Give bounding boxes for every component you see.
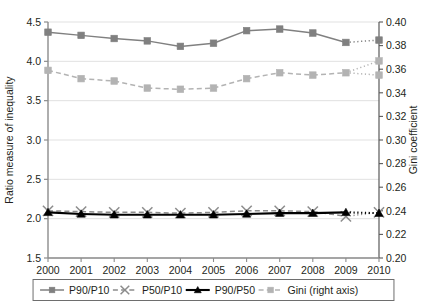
data-point-marker (78, 32, 85, 39)
left-axis-tick-label: 3.0 (26, 134, 41, 146)
data-point-marker (310, 30, 317, 37)
data-point-marker (310, 72, 317, 79)
series-line-segment (280, 211, 313, 212)
legend-item-label: P90/P50 (215, 284, 255, 296)
data-point-marker (268, 287, 274, 293)
data-point-marker (78, 75, 85, 82)
right-axis-tick-label: 0.38 (386, 39, 407, 51)
data-point-marker (376, 37, 383, 44)
series-line-segment (214, 214, 247, 215)
left-axis-title: Ratio measure of inequality (3, 76, 15, 204)
data-point-marker (144, 85, 151, 92)
data-point-marker (343, 69, 350, 76)
legend-item-label: Gini (right axis) (288, 284, 359, 296)
series-line-segment (81, 214, 114, 215)
chart-legend: P90/P10P50/P10P90/P50Gini (right axis) (33, 280, 394, 301)
data-point-marker (276, 69, 283, 76)
right-axis-tick-label: 0.22 (386, 228, 407, 240)
x-axis-tick-label: 2006 (235, 264, 259, 276)
right-axis-tick-label: 0.32 (386, 110, 407, 122)
x-axis-tick-label: 2008 (301, 264, 325, 276)
data-point-marker (144, 38, 151, 45)
data-point-marker (243, 27, 250, 34)
data-point-marker (276, 26, 283, 33)
data-point-marker (111, 78, 118, 85)
series-line-segment (313, 212, 346, 213)
right-axis-tick-label: 0.30 (386, 134, 407, 146)
left-axis-tick-label: 1.5 (26, 252, 41, 264)
data-point-marker (210, 40, 217, 47)
series-line-segment (147, 212, 180, 213)
series-line-segment (247, 213, 280, 214)
data-point-marker (210, 85, 217, 92)
right-axis-tick-label: 0.40 (386, 16, 407, 28)
right-axis-tick-label: 0.36 (386, 63, 407, 75)
data-point-marker (243, 75, 250, 82)
left-axis-tick-label: 2.0 (26, 212, 41, 224)
series-line-segment (180, 212, 213, 213)
right-axis-tick-label: 0.20 (386, 252, 407, 264)
legend-item-label: P50/P10 (142, 284, 182, 296)
x-axis-tick-label: 2005 (202, 264, 226, 276)
left-axis-tick-label: 4.0 (26, 55, 41, 67)
data-point-marker (111, 35, 118, 42)
legend-item-label: P90/P10 (69, 284, 109, 296)
x-axis-tick-label: 2004 (169, 264, 193, 276)
x-axis-tick-label: 2000 (36, 264, 60, 276)
data-point-marker (376, 58, 383, 65)
left-axis-tick-label: 4.5 (26, 16, 41, 28)
data-point-marker (177, 43, 184, 50)
data-point-marker (49, 287, 55, 293)
x-axis-tick-label: 2007 (268, 264, 292, 276)
left-axis-tick-label: 3.5 (26, 94, 41, 106)
series-line-segment (48, 211, 81, 212)
left-axis-tick-label: 2.5 (26, 173, 41, 185)
right-axis-tick-label: 0.28 (386, 157, 407, 169)
data-point-marker (376, 72, 383, 79)
data-point-marker (45, 67, 52, 74)
right-axis-tick-label: 0.34 (386, 87, 407, 99)
series-line-segment (81, 212, 114, 213)
data-point-marker (343, 39, 350, 46)
data-point-marker (45, 29, 52, 36)
x-axis-tick-label: 2002 (103, 264, 127, 276)
x-axis-tick-label: 2010 (367, 264, 391, 276)
x-axis-tick-label: 2009 (334, 264, 358, 276)
chart-canvas: 1.52.02.53.03.54.04.5 0.200.220.240.260.… (0, 0, 427, 307)
inequality-trend-chart: 1.52.02.53.03.54.04.5 0.200.220.240.260.… (0, 0, 427, 307)
right-axis-tick-label: 0.26 (386, 181, 407, 193)
right-axis-title: Gini coefficient (407, 106, 419, 175)
x-axis-tick-label: 2003 (136, 264, 160, 276)
data-point-marker (177, 86, 184, 93)
x-axis-tick-label: 2001 (69, 264, 93, 276)
right-axis-tick-label: 0.24 (386, 205, 407, 217)
